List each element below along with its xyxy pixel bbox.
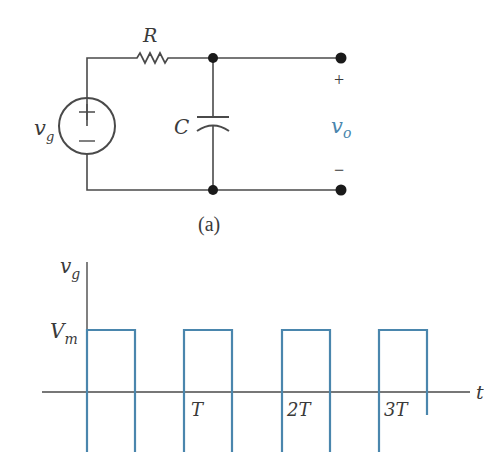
resistor-label: R — [142, 24, 157, 46]
pulse-2 — [184, 330, 232, 452]
resistor-icon — [134, 53, 171, 63]
figure-caption: (a) — [198, 213, 220, 236]
output-voltage-label: vo — [331, 114, 351, 141]
tick-label-3T: 3T — [384, 399, 409, 420]
square-wave — [87, 330, 427, 452]
wire-bottom — [87, 154, 341, 190]
output-voltage-labels: + vo − — [331, 70, 351, 180]
pulse-3 — [282, 330, 330, 452]
output-plus-sign: + — [334, 70, 344, 90]
wire-top-left — [87, 58, 134, 126]
x-axis-label: t — [476, 381, 484, 403]
source-plus-sign — [79, 104, 95, 120]
pulse-1 — [87, 330, 135, 452]
tick-label-T: T — [191, 399, 205, 420]
y-axis-label: vg — [60, 254, 80, 282]
tick-label-2T: 2T — [286, 399, 312, 420]
circuit-nodes — [208, 53, 347, 196]
amplitude-label: Vm — [50, 319, 78, 347]
diagram-canvas: R vg C + vo − (a) vg Vm t T 2T 3T — [0, 0, 484, 452]
output-minus-sign: − — [334, 160, 344, 180]
source-label: vg — [34, 116, 54, 144]
capacitor-label: C — [174, 115, 189, 139]
node-bottom-junction — [208, 185, 218, 195]
pulse-4 — [379, 330, 427, 452]
circuit-schematic — [59, 53, 341, 190]
output-terminal-top — [336, 53, 347, 64]
waveform-axes — [42, 262, 470, 392]
node-top-junction — [208, 53, 218, 63]
output-terminal-bottom — [336, 185, 347, 196]
